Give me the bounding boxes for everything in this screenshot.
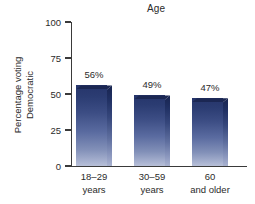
bar[interactable]: 47% <box>192 98 228 166</box>
bar-top-face <box>192 98 228 102</box>
bar-value-label: 56% <box>70 69 118 80</box>
bar-front-face <box>134 95 165 166</box>
x-axis-category-label: 18–29years <box>62 171 126 196</box>
bar-side-face <box>107 85 112 166</box>
x-axis-category-line: 18–29 <box>62 171 126 184</box>
bar-side-face <box>223 98 228 166</box>
bar-value-label: 47% <box>186 82 234 93</box>
bar-top-face <box>76 85 112 89</box>
bar-front-face <box>76 85 107 166</box>
bar-side-face <box>165 95 170 166</box>
x-axis-category-line: years <box>62 184 126 197</box>
x-axis-category-label: 60and older <box>178 171 242 196</box>
x-axis-category-line: and older <box>178 184 242 197</box>
bar-chart: Age Percentage voting Democratic 0255075… <box>0 0 255 204</box>
x-axis-category-label: 30–59years <box>120 171 184 196</box>
x-axis-category-line: 30–59 <box>120 171 184 184</box>
x-axis-category-line: years <box>120 184 184 197</box>
bar-top-face <box>134 95 170 99</box>
bar-value-label: 49% <box>128 79 176 90</box>
bar[interactable]: 49% <box>134 95 170 166</box>
bar-front-face <box>192 98 223 166</box>
x-axis-category-line: 60 <box>178 171 242 184</box>
bar[interactable]: 56% <box>76 85 112 166</box>
